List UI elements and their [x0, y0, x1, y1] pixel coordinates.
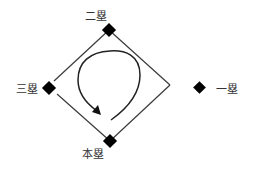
field-outline: [54, 30, 170, 141]
running-path-curve: [78, 51, 140, 120]
line-third-to-home: [57, 94, 110, 141]
second-base-label: 二塁: [85, 11, 107, 23]
first-base-marker-icon: [193, 81, 206, 94]
first-base-label: 一塁: [216, 84, 238, 96]
arrowhead-icon: [92, 105, 101, 115]
third-base-marker-icon: [42, 81, 56, 95]
third-base-label: 三塁: [16, 84, 38, 96]
home-base-label: 本塁: [82, 149, 104, 161]
line-second-to-third: [54, 30, 109, 81]
baseball-diamond-diagram: 二塁 三塁 本塁 一塁: [0, 0, 253, 170]
